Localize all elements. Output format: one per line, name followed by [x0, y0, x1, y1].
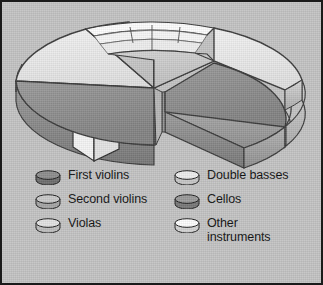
pie-slice-first-violins-top: [16, 81, 154, 145]
legend-item-cellos[interactable]: Cellos: [174, 192, 320, 214]
legend-item-second-violins[interactable]: Second violins: [35, 192, 175, 214]
cylinder-swatch-icon: [35, 218, 61, 233]
legend-label: Double basses: [207, 168, 288, 183]
cylinder-swatch-icon: [35, 194, 61, 209]
legend-item-first-violins[interactable]: First violins: [35, 168, 175, 190]
chart-legend: First violins Second violins: [2, 168, 321, 283]
cylinder-swatch-icon: [174, 194, 200, 209]
legend-item-other-instruments[interactable]: Other instruments: [174, 216, 320, 256]
pie-chart-graphic: [2, 2, 321, 170]
cylinder-swatch-icon: [174, 170, 200, 185]
legend-label: First violins: [68, 168, 129, 183]
legend-label: Cellos: [207, 192, 241, 207]
legend-column-right: Double basses Cellos O: [174, 168, 320, 258]
legend-label: Violas: [68, 216, 101, 231]
legend-item-double-basses[interactable]: Double basses: [174, 168, 320, 190]
pie-svg: [2, 2, 321, 170]
cylinder-swatch-icon: [174, 218, 200, 233]
legend-item-violas[interactable]: Violas: [35, 216, 175, 238]
legend-label: Second violins: [68, 192, 147, 207]
pie-centre-gap: [154, 88, 162, 145]
legend-label: Other instruments: [207, 216, 271, 244]
pie-slice-other-instruments-top: [86, 22, 214, 54]
pie-chart-figure: First violins Second violins: [0, 0, 323, 285]
cylinder-swatch-icon: [35, 170, 61, 185]
legend-column-left: First violins Second violins: [35, 168, 175, 240]
